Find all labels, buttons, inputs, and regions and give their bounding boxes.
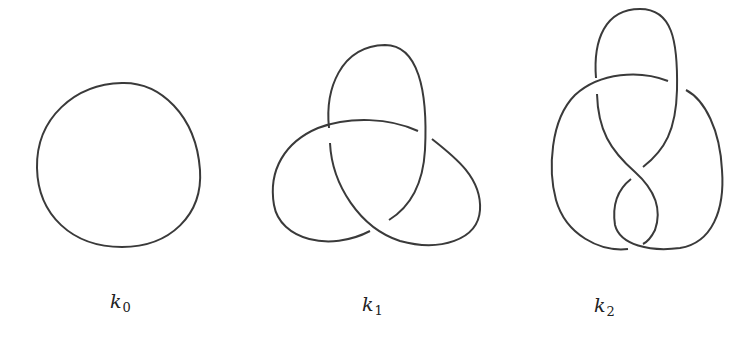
knot-k2-figure-eight xyxy=(552,9,723,249)
label-k0: k0 xyxy=(110,292,131,314)
knot-k0-unknot xyxy=(37,83,200,247)
label-k2: k2 xyxy=(594,296,615,318)
knot-k1-trefoil xyxy=(273,45,480,245)
label-k1: k1 xyxy=(362,295,383,317)
